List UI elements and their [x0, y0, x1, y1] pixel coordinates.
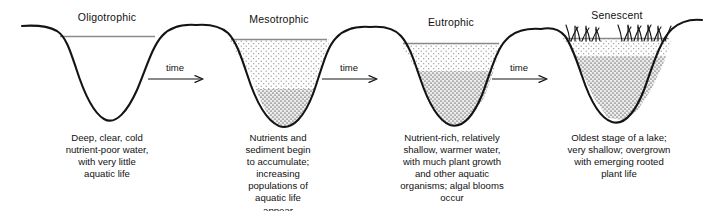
- basin-oligotrophic: [22, 25, 196, 131]
- caption-line: aquatic life: [214, 192, 342, 204]
- caption-senescent: Oldest stage of a lake; very shallow; ov…: [539, 132, 699, 180]
- stage-label-senescent: Senescent: [567, 9, 667, 21]
- lake-eutrophication-diagram: Oligotrophic Mesotrophic Eutrophic Senes…: [0, 0, 710, 211]
- time-label-3: time: [494, 62, 544, 73]
- caption-line: Deep, clear, cold: [33, 132, 181, 144]
- time-arrow-1: [148, 76, 203, 83]
- caption-oligotrophic: Deep, clear, cold nutrient-poor water, w…: [33, 132, 181, 180]
- caption-line: with emerging rooted: [539, 156, 699, 168]
- caption-line: with very little: [33, 156, 181, 168]
- stage-label-eutrophic: Eutrophic: [401, 16, 501, 28]
- caption-line: Nutrient-rich, relatively: [371, 132, 533, 144]
- caption-line: with much plant growth: [371, 156, 533, 168]
- caption-line: aquatic life: [33, 168, 181, 180]
- caption-line: occur: [371, 192, 533, 204]
- sediment-fill-eutrophic: [394, 71, 514, 141]
- caption-line: populations of: [214, 180, 342, 192]
- caption-line: sediment begin: [214, 144, 342, 156]
- time-label-1: time: [150, 62, 200, 73]
- caption-line: shallow, warmer water,: [371, 144, 533, 156]
- caption-line: organisms; algal blooms: [371, 180, 533, 192]
- caption-line: increasing: [214, 168, 342, 180]
- caption-eutrophic: Nutrient-rich, relatively shallow, warme…: [371, 132, 533, 205]
- caption-line: Nutrients and: [214, 132, 342, 144]
- sediment-fill-senescent: [556, 56, 681, 136]
- basin-mesotrophic: [196, 25, 370, 144]
- stage-label-mesotrophic: Mesotrophic: [229, 13, 329, 25]
- time-arrow-3: [492, 76, 547, 83]
- caption-line: plant life: [539, 168, 699, 180]
- caption-line: to accumulate;: [214, 156, 342, 168]
- caption-line: appear: [214, 205, 342, 211]
- caption-line: and other aquatic: [371, 168, 533, 180]
- time-arrow-2: [322, 76, 377, 83]
- caption-mesotrophic: Nutrients and sediment begin to accumula…: [214, 132, 342, 211]
- stage-label-oligotrophic: Oligotrophic: [57, 11, 157, 23]
- basin-senescent: [541, 20, 702, 136]
- time-label-2: time: [324, 62, 374, 73]
- caption-line: Oldest stage of a lake;: [539, 132, 699, 144]
- caption-line: very shallow; overgrown: [539, 144, 699, 156]
- basin-eutrophic: [370, 27, 541, 141]
- caption-line: nutrient-poor water,: [33, 144, 181, 156]
